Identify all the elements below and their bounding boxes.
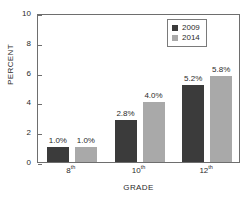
- x-axis-tick-label-base: 10: [132, 166, 141, 175]
- bar-8th-2009: [47, 147, 69, 162]
- x-axis-tick-label-suffix: th: [141, 164, 146, 170]
- x-axis-tick-labels: 8th10th12th: [37, 166, 240, 180]
- y-axis-tick-labels: 0246810: [0, 0, 34, 214]
- bar-chart: PERCENT 0246810 1.0%1.0%2.8%4.0%5.2%5.8%…: [0, 0, 251, 214]
- y-axis-tick: [38, 134, 42, 135]
- y-axis-tick: [38, 104, 42, 105]
- y-axis-tick: [38, 75, 42, 76]
- y-axis-tick: [38, 45, 42, 46]
- bar-value-label: 4.0%: [137, 92, 171, 100]
- x-axis-tick-label: 8th: [46, 166, 96, 175]
- x-axis-tick-label: 10th: [114, 166, 164, 175]
- y-axis-tick-label: 4: [27, 99, 31, 107]
- bar-value-label: 1.0%: [69, 137, 103, 145]
- legend: 2009 2014: [167, 19, 207, 47]
- y-axis-tick: [38, 164, 42, 165]
- bar-value-label: 5.2%: [176, 75, 210, 83]
- legend-swatch-2009-icon: [172, 25, 178, 31]
- y-axis-tick: [38, 15, 42, 16]
- legend-item: 2014: [172, 33, 200, 43]
- legend-swatch-2014-icon: [172, 35, 178, 41]
- bar-10th-2014: [143, 102, 165, 162]
- bar-value-label: 2.8%: [109, 110, 143, 118]
- y-axis-tick-label: 10: [22, 10, 31, 18]
- x-axis-tick-label-suffix: th: [208, 164, 213, 170]
- bar-12th-2014: [210, 76, 232, 162]
- bar-12th-2009: [182, 85, 204, 162]
- bars-layer: 1.0%1.0%2.8%4.0%5.2%5.8%: [38, 15, 239, 162]
- x-axis-tick-label-suffix: th: [71, 164, 76, 170]
- legend-label-2014: 2014: [182, 34, 200, 42]
- legend-label-2009: 2009: [182, 24, 200, 32]
- bar-8th-2014: [75, 147, 97, 162]
- legend-item: 2009: [172, 23, 200, 33]
- y-axis-tick-label: 0: [27, 159, 31, 167]
- bar-10th-2009: [115, 120, 137, 162]
- y-axis-tick-label: 8: [27, 40, 31, 48]
- bar-value-label: 5.8%: [204, 66, 238, 74]
- x-axis-tick-label-base: 12: [199, 166, 208, 175]
- x-axis-title: GRADE: [37, 183, 240, 192]
- y-axis-tick-label: 6: [27, 70, 31, 78]
- plot-area: 1.0%1.0%2.8%4.0%5.2%5.8%: [37, 14, 240, 163]
- x-axis-tick-label: 12th: [181, 166, 231, 175]
- y-axis-tick-label: 2: [27, 129, 31, 137]
